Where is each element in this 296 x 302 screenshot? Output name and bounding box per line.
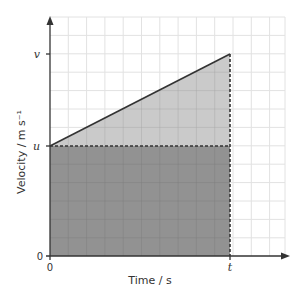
y-axis-title: Velocity / m s⁻¹ bbox=[15, 110, 28, 194]
x-axis-title: Time / s bbox=[127, 274, 172, 287]
x-tick-label-0: 0 bbox=[47, 262, 53, 273]
velocity-time-graph: v u 0 0 t Time / s Velocity / m s⁻¹ bbox=[0, 0, 296, 302]
y-tick-label-u: u bbox=[33, 140, 40, 153]
y-tick-label-v: v bbox=[34, 48, 41, 61]
x-tick-label-t: t bbox=[228, 261, 233, 274]
y-tick-label-0: 0 bbox=[37, 251, 43, 262]
